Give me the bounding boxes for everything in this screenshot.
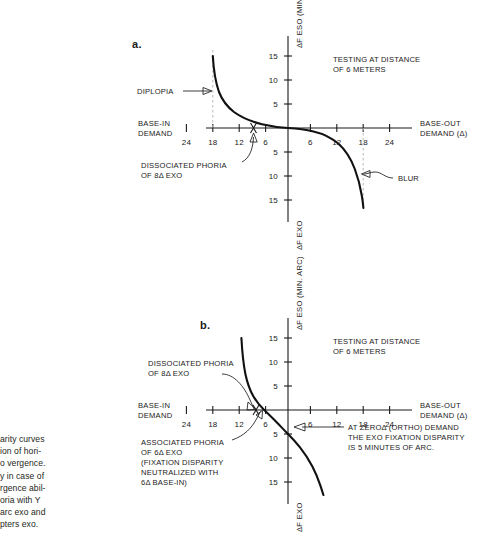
panel-b-ytick-eso-15: 15 (269, 334, 279, 343)
panel-b-xtick-left-18: 18 (208, 420, 218, 429)
panel-a-y-top-label: ΔF ESO (MIN. ARC) (295, 0, 304, 48)
panel-b-base-in-line1: BASE-IN (138, 401, 170, 410)
panel-a: a. TESTING AT DISTANCE OF 6 METERS 24 18… (0, 0, 493, 270)
panel-b-annotation-zero-line2: THE EXO FIXATION DISPARITY (348, 433, 465, 442)
panel-a-annotation-dissociated-line1: DISSOCIATED PHORIA (141, 161, 227, 170)
panel-b-testing-note-line1: TESTING AT DISTANCE (333, 337, 420, 346)
panel-b-annotation-associated-line1: ASSOCIATED PHORIA (141, 438, 225, 447)
panel-b-annotation-associated-line3: (FIXATION DISPARITY (141, 458, 223, 467)
panel-b-annotation-associated-line2: OF 6Δ EXO (141, 448, 182, 457)
panel-b-base-out-line2: DEMAND (Δ) (420, 411, 468, 420)
panel-a-base-in-line1: BASE-IN (138, 119, 170, 128)
panel-a-ytick-exo-10: 10 (269, 172, 279, 181)
panel-a-y-bottom-label: ΔF EXO (295, 220, 304, 250)
panel-a-diplopia-leader (183, 88, 212, 95)
panel-a-xtick-right-6: 6 (308, 138, 313, 147)
panel-b-ytick-eso-10: 10 (269, 358, 279, 367)
panel-a-ytick-exo-15: 15 (269, 196, 279, 205)
panel-a-xtick-right-24: 24 (385, 138, 395, 147)
panel-a-blur-leader (362, 171, 394, 179)
panel-a-letter: a. (132, 38, 142, 50)
panel-b-base-in-line2: DEMAND (138, 411, 173, 420)
panel-a-testing-note-line2: OF 6 METERS (333, 65, 386, 74)
panel-a-annotation-blur: BLUR (398, 174, 419, 183)
panel-b-ytick-eso-5: 5 (273, 382, 278, 391)
panel-b-ytick-exo-5: 5 (273, 430, 278, 439)
panel-b-xtick-right-6: 6 (308, 420, 313, 429)
panel-b-annotation-dissociated-line1: DISSOCIATED PHORIA (148, 359, 234, 368)
panel-b-annotation-associated-line5: 6Δ BASE-IN) (141, 478, 187, 487)
panel-b-annotation-zero-line1: AT ZEROΔ (ORTHO) DEMAND (348, 423, 459, 432)
caption-line-4: y in case of (0, 470, 104, 482)
panel-a-dissociated-leader (242, 133, 257, 162)
panel-a-testing-note-line1: TESTING AT DISTANCE (333, 55, 420, 64)
panel-a-xtick-left-6: 6 (263, 138, 268, 147)
panel-b-xtick-right-12: 12 (332, 420, 342, 429)
panel-b-annotation-associated-line4: NEUTRALIZED WITH (141, 468, 218, 477)
panel-a-annotation-diplopia: DIPLOPIA (137, 87, 174, 96)
panel-a-base-out-line2: DEMAND (Δ) (420, 129, 468, 138)
panel-b-xtick-left-24: 24 (182, 420, 192, 429)
panel-b-y-bottom-label: ΔF EXO (295, 502, 304, 532)
panel-b-testing-note-line2: OF 6 METERS (333, 347, 386, 356)
panel-a-xtick-left-18: 18 (208, 138, 218, 147)
panel-a-xtick-left-12: 12 (235, 138, 245, 147)
panel-b-ytick-exo-15: 15 (269, 478, 279, 487)
panel-a-ytick-eso-10: 10 (269, 76, 279, 85)
caption-line-3: o vergence. (0, 457, 104, 469)
panel-b-annotation-dissociated-line2: OF 8Δ EXO (148, 369, 189, 378)
panel-a-chart: a. TESTING AT DISTANCE OF 6 METERS 24 18… (0, 0, 493, 270)
panel-a-annotation-dissociated-line2: OF 8Δ EXO (141, 171, 182, 180)
panel-a-ytick-eso-15: 15 (269, 52, 279, 61)
caption-line-8: pters exo. (0, 518, 104, 530)
panel-b-letter: b. (200, 319, 211, 331)
panel-a-base-out-line1: BASE-OUT (420, 119, 461, 128)
panel-b-annotation-zero-line3: IS 5 MINUTES OF ARC. (348, 443, 434, 452)
caption-line-7: arc exo and (0, 506, 104, 518)
panel-a-xtick-left-24: 24 (182, 138, 192, 147)
caption-line-1: arity curves (0, 433, 104, 445)
caption-line-2: ion of hori- (0, 445, 104, 457)
panel-b-base-out-line1: BASE-OUT (420, 401, 461, 410)
panel-a-ytick-eso-5: 5 (273, 100, 278, 109)
panel-a-ytick-exo-5: 5 (273, 148, 278, 157)
caption-line-6: oria with Y (0, 494, 104, 506)
panel-a-base-in-line2: DEMAND (138, 129, 173, 138)
figure-caption: arity curves ion of hori- o vergence. y … (0, 433, 104, 531)
panel-b-xtick-left-6: 6 (263, 420, 268, 429)
panel-b-xtick-left-12: 12 (235, 420, 245, 429)
panel-b-ytick-exo-10: 10 (269, 454, 279, 463)
caption-line-5: rgence abil- (0, 482, 104, 494)
panel-b-y-top-label: ΔF ESO (MIN. ARC) (295, 256, 304, 330)
panel-b-curve (241, 338, 323, 495)
